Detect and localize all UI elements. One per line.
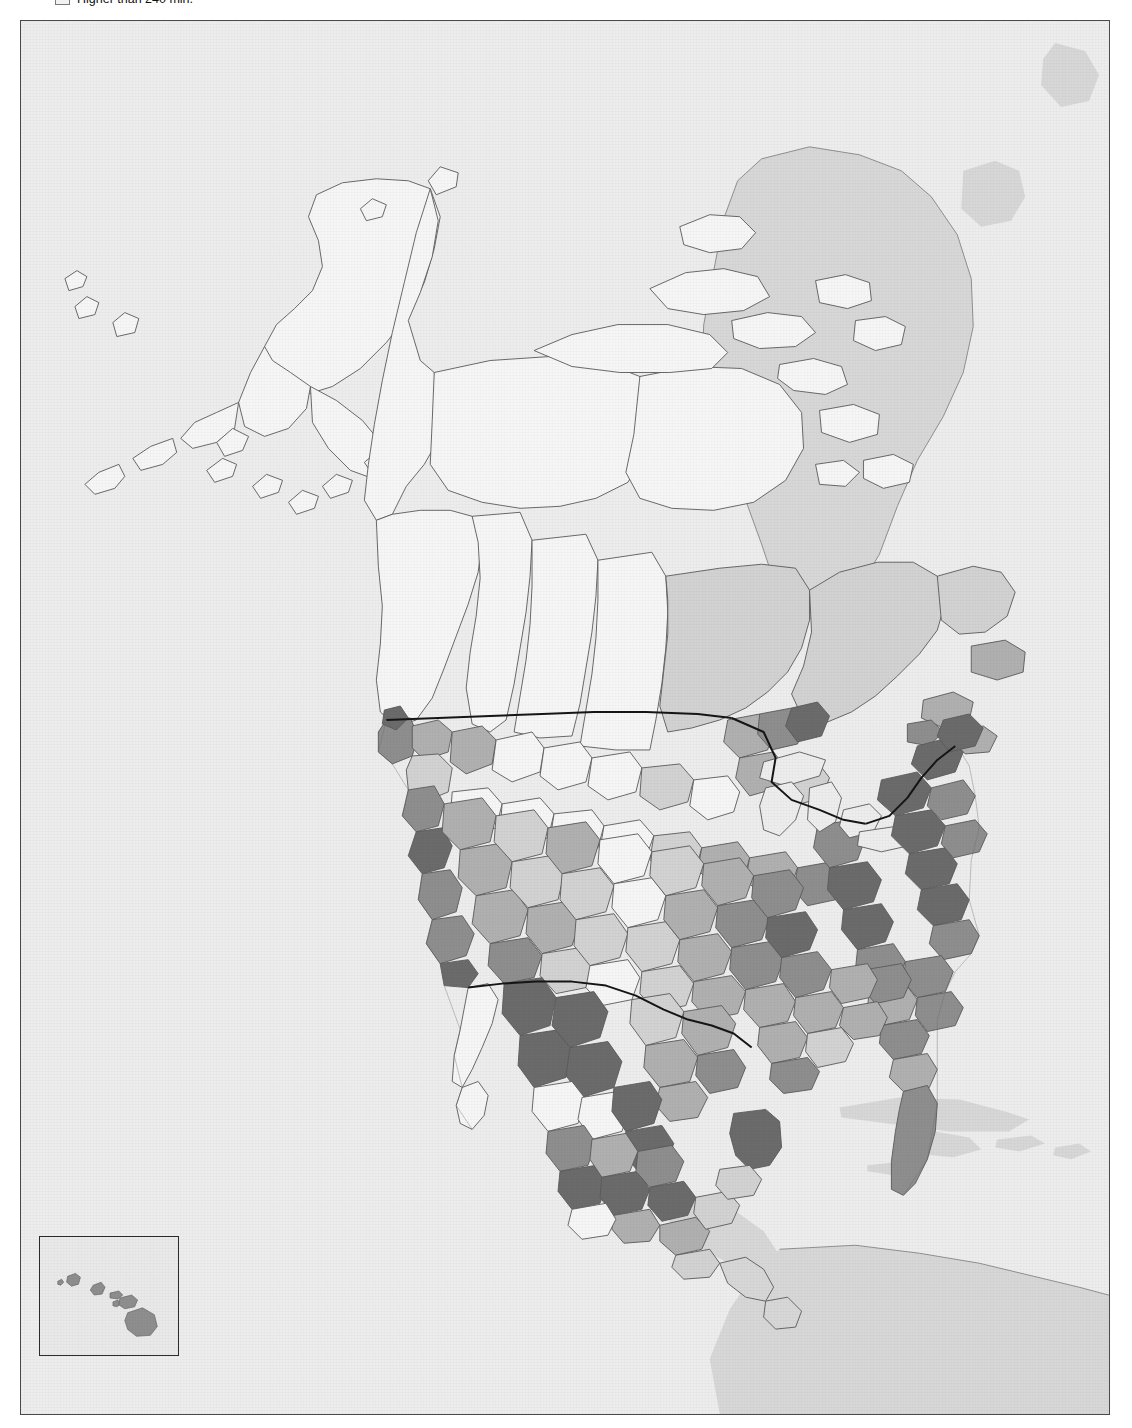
map-frame[interactable]: .c0{fill:#f6f6f6;} /* Higher than 240 mi… xyxy=(20,20,1110,1415)
legend-entry-highest: Higher than 240 min. xyxy=(55,0,193,6)
legend-swatch-icon xyxy=(55,0,70,5)
inset-background xyxy=(40,1237,178,1355)
hawaii-inset-map[interactable] xyxy=(40,1237,178,1355)
map-legend: Higher than 240 min. xyxy=(0,0,1132,20)
hawaii-inset-box[interactable] xyxy=(39,1236,179,1356)
north-america-choropleth[interactable]: .c0{fill:#f6f6f6;} /* Higher than 240 mi… xyxy=(21,21,1109,1414)
legend-entry-label: Higher than 240 min. xyxy=(77,0,193,6)
